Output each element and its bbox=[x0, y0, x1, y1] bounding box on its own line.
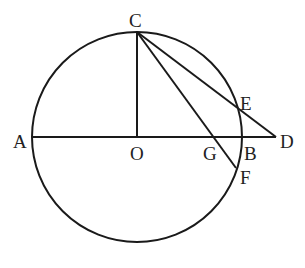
label-f: F bbox=[240, 167, 251, 188]
segment-cf bbox=[137, 32, 236, 168]
label-c: C bbox=[129, 10, 142, 31]
label-o: O bbox=[130, 143, 144, 164]
label-a: A bbox=[13, 131, 27, 152]
label-b: B bbox=[244, 143, 257, 164]
label-g: G bbox=[203, 143, 217, 164]
geometry-diagram: C A O G B D E F bbox=[0, 0, 305, 268]
segment-cd bbox=[137, 32, 276, 137]
label-d: D bbox=[280, 131, 294, 152]
label-e: E bbox=[240, 93, 252, 114]
